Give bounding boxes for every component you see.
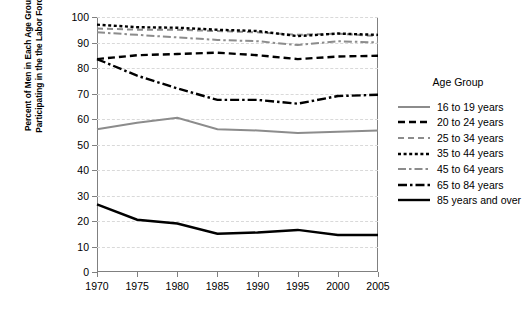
x-tick-label: 1995 — [286, 281, 309, 292]
y-tick-label: 30 — [63, 190, 89, 201]
x-tick-label: 2000 — [326, 281, 349, 292]
legend-title: Age Group — [392, 76, 524, 88]
legend-item[interactable]: 35 to 44 years — [398, 146, 524, 162]
x-tick-label: 2005 — [366, 281, 389, 292]
y-tick-label: 20 — [63, 216, 89, 227]
legend-swatch — [398, 195, 430, 205]
plot-area: 0102030405060708090100 19701975198019851… — [97, 17, 378, 272]
x-tick — [258, 272, 259, 277]
y-axis-title-line2: Participating in the the Labor Force — [34, 0, 45, 171]
x-tick — [378, 272, 379, 277]
legend: Age Group 16 to 19 years20 to 24 years25… — [398, 76, 524, 208]
x-tick-label: 1990 — [246, 281, 269, 292]
legend-label: 85 years and over — [437, 195, 521, 206]
data-lines — [97, 17, 378, 272]
legend-swatch — [398, 180, 430, 190]
y-tick-label: 90 — [63, 37, 89, 48]
series-line — [97, 53, 378, 59]
legend-item[interactable]: 25 to 34 years — [398, 130, 524, 146]
y-tick-label: 80 — [63, 63, 89, 74]
legend-item[interactable]: 20 to 24 years — [398, 115, 524, 131]
series-line — [97, 59, 378, 104]
y-axis-title: Percent of Men in Each Age Group Partici… — [23, 0, 45, 171]
legend-label: 35 to 44 years — [437, 148, 504, 159]
series-line — [97, 118, 378, 133]
legend-item[interactable]: 65 to 84 years — [398, 177, 524, 193]
x-tick — [137, 272, 138, 277]
legend-label: 16 to 19 years — [437, 102, 504, 113]
legend-label: 45 to 64 years — [437, 164, 504, 175]
x-tick — [217, 272, 218, 277]
y-tick-label: 40 — [63, 165, 89, 176]
legend-entries: 16 to 19 years20 to 24 years25 to 34 yea… — [398, 99, 524, 208]
legend-label: 20 to 24 years — [437, 117, 504, 128]
x-tick — [298, 272, 299, 277]
y-tick-label: 10 — [63, 241, 89, 252]
legend-swatch — [398, 102, 430, 112]
x-tick-label: 1980 — [166, 281, 189, 292]
y-tick-label: 0 — [63, 267, 89, 278]
x-tick-label: 1985 — [206, 281, 229, 292]
y-tick-label: 50 — [63, 139, 89, 150]
y-tick-label: 100 — [63, 12, 89, 23]
x-tick-label: 1975 — [125, 281, 148, 292]
y-tick-label: 60 — [63, 114, 89, 125]
legend-swatch — [398, 149, 430, 159]
chart-figure: Percent of Men in Each Age Group Partici… — [0, 0, 528, 311]
legend-item[interactable]: 45 to 64 years — [398, 161, 524, 177]
legend-item[interactable]: 85 years and over — [398, 193, 524, 209]
series-line — [97, 32, 378, 45]
legend-label: 25 to 34 years — [437, 133, 504, 144]
legend-swatch — [398, 164, 430, 174]
y-axis-title-line1: Percent of Men in Each Age Group — [23, 0, 34, 171]
legend-swatch — [398, 117, 430, 127]
legend-swatch — [398, 133, 430, 143]
x-tick-label: 1970 — [85, 281, 108, 292]
x-tick — [338, 272, 339, 277]
legend-item[interactable]: 16 to 19 years — [398, 99, 524, 115]
legend-label: 65 to 84 years — [437, 180, 504, 191]
x-tick — [177, 272, 178, 277]
series-line — [97, 204, 378, 235]
y-tick-label: 70 — [63, 88, 89, 99]
x-tick — [97, 272, 98, 277]
